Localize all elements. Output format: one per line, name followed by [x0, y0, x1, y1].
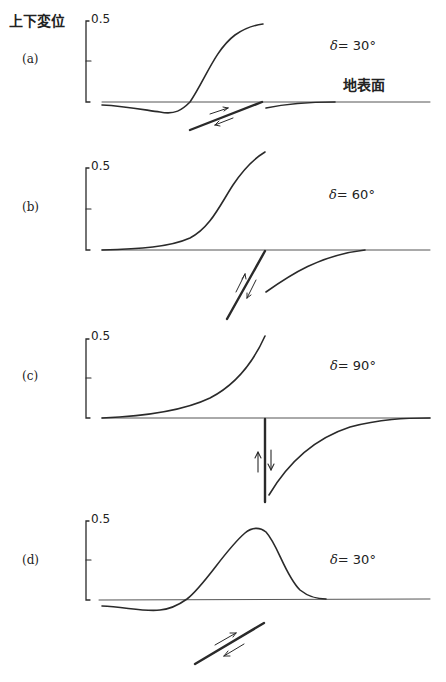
panel-d-graphics: [86, 521, 430, 664]
delta-symbol: δ: [330, 552, 338, 567]
panel-d-tick-0.5: 0.5: [91, 512, 110, 526]
ground-surface-label: 地表面: [343, 74, 385, 94]
panel-d-fault-line: [195, 623, 264, 664]
panel-a-displacement-curve-right: [266, 102, 335, 108]
panel-c-displacement-curve-right: [269, 418, 430, 495]
panel-c-dip-angle: δ= 90°: [330, 358, 376, 373]
y-axis-label: 上下変位: [9, 10, 65, 30]
delta-symbol: δ: [330, 38, 338, 53]
panel-b-displacement-curve-left: [102, 152, 265, 250]
panel-a-dip-angle: δ= 30°: [330, 38, 376, 53]
panel-a-tick-0.5: 0.5: [91, 12, 110, 26]
panel-b-dip-angle: δ= 60°: [329, 187, 375, 202]
panel-b-label: (b): [22, 200, 39, 214]
panel-c-displacement-curve-left: [102, 336, 265, 418]
delta-symbol: δ: [329, 187, 337, 202]
panel-b-fault-line: [227, 251, 265, 319]
panel-a-slip-arrow-up: [210, 108, 228, 114]
panel-a-label: (a): [22, 52, 39, 66]
panel-c-graphics: [86, 336, 430, 502]
fault-displacement-diagram: [0, 0, 446, 682]
panel-d-displacement-curve: [102, 528, 326, 610]
panel-b-displacement-curve-right: [266, 250, 365, 292]
panel-b-tick-0.5: 0.5: [91, 159, 110, 173]
panel-d-slip-arrow-up: [215, 633, 236, 645]
panel-d-dip-angle: δ= 30°: [330, 552, 376, 567]
panel-c-tick-0.5: 0.5: [91, 329, 110, 343]
panel-b-graphics: [86, 152, 430, 319]
panel-a-fault-line: [190, 102, 262, 130]
delta-symbol: δ: [330, 358, 338, 373]
panel-d-baseline: [99, 599, 430, 600]
panel-a-displacement-curve-left: [102, 24, 263, 113]
panel-d-label: (d): [22, 553, 39, 567]
panel-c-label: (c): [22, 369, 38, 383]
